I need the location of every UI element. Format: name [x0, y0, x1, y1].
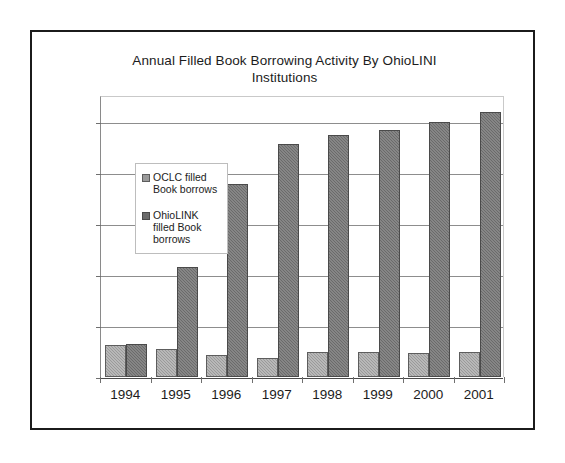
bar-group-2000	[408, 97, 450, 377]
legend-swatch-oclc-icon	[142, 174, 150, 182]
chart-title-line-1: Annual Filled Book Borrowing Activity By…	[72, 52, 497, 69]
x-tick-label-1998: 1998	[312, 387, 342, 402]
bar-ohiolink-2000	[429, 122, 450, 377]
chart-frame: Annual Filled Book Borrowing Activity By…	[30, 30, 535, 430]
x-tick-mark	[201, 377, 202, 383]
chart-legend: OCLC filled Book borrows OhioLINK filled…	[135, 163, 228, 254]
x-axis: 19941995199619971998199920002001	[100, 377, 504, 417]
bar-ohiolink-1998	[328, 135, 349, 377]
legend-label-oclc-line-2: borrows	[180, 183, 217, 195]
x-tick-mark	[151, 377, 152, 383]
bar-oclc-2001	[459, 352, 480, 377]
x-tick-label-2000: 2000	[413, 387, 443, 402]
x-tick-mark	[454, 377, 455, 383]
bar-oclc-2000	[408, 353, 429, 377]
bar-oclc-1998	[307, 352, 328, 377]
bar-group-1997	[257, 97, 299, 377]
legend-item: OCLC filled Book borrows	[142, 171, 221, 195]
legend-label-ohiolink: OhioLINK filled Book borrows	[153, 209, 221, 245]
bar-oclc-1997	[257, 358, 278, 377]
x-tick-label-1994: 1994	[110, 387, 140, 402]
legend-swatch-ohiolink-icon	[142, 212, 150, 220]
x-tick-mark	[353, 377, 354, 383]
chart-title-line-2: Institutions	[72, 69, 497, 86]
chart-title: Annual Filled Book Borrowing Activity By…	[72, 52, 497, 86]
bar-oclc-1995	[156, 349, 177, 377]
bar-ohiolink-2001	[480, 112, 501, 377]
x-tick-mark	[403, 377, 404, 383]
bar-ohiolink-1996	[227, 184, 248, 377]
x-tick-label-1996: 1996	[211, 387, 241, 402]
x-tick-mark	[100, 377, 101, 383]
x-tick-mark	[302, 377, 303, 383]
x-tick-label-1999: 1999	[363, 387, 393, 402]
legend-label-oclc: OCLC filled Book borrows	[153, 171, 221, 195]
x-tick-mark	[504, 377, 505, 383]
bar-ohiolink-1997	[278, 144, 299, 377]
x-tick-mark	[252, 377, 253, 383]
bar-group-2001	[459, 97, 501, 377]
bar-oclc-1996	[206, 355, 227, 377]
x-tick-label-2001: 2001	[464, 387, 494, 402]
x-tick-label-1997: 1997	[262, 387, 292, 402]
bar-group-1998	[307, 97, 349, 377]
bar-oclc-1999	[358, 352, 379, 377]
bar-ohiolink-1995	[177, 267, 198, 377]
legend-item: OhioLINK filled Book borrows	[142, 209, 221, 245]
x-tick-label-1995: 1995	[161, 387, 191, 402]
bar-group-1999	[358, 97, 400, 377]
bar-ohiolink-1994	[126, 344, 147, 377]
chart-figure: Annual Filled Book Borrowing Activity By…	[0, 0, 565, 463]
bar-ohiolink-1999	[379, 130, 400, 377]
bar-oclc-1994	[105, 345, 126, 377]
